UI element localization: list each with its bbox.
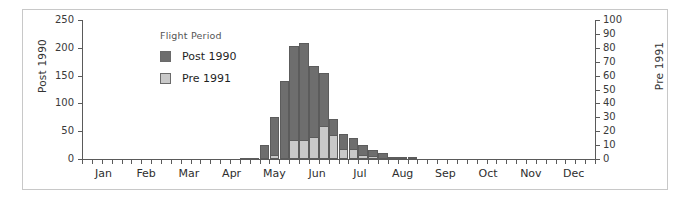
bar-segment-pre-1991 [349,149,359,159]
x-tick [408,160,409,164]
x-tick [368,160,369,164]
bar-segment-pre-1991 [368,156,378,159]
x-tick [210,160,211,164]
x-tick [92,160,93,164]
x-tick [516,160,517,164]
y-tick-right [596,76,600,77]
y-tick-right [596,34,600,35]
legend-item[interactable]: Post 1990 [160,50,237,63]
x-tick [467,160,468,164]
legend-item[interactable]: Pre 1991 [160,72,237,85]
bar-segment-pre-1991 [358,155,368,159]
bar-segment-pre-1991 [280,158,290,160]
x-axis-month-label: May [250,167,298,180]
x-axis-month-label: Oct [464,167,512,180]
bar-segment-pre-1991 [319,126,329,159]
x-tick [171,160,172,164]
y-tick-right [596,131,600,132]
x-tick [556,160,557,164]
bar-segment-pre-1991 [309,137,319,159]
x-axis-month-label: Jan [79,167,127,180]
y-tick-left [78,20,82,21]
x-tick [220,160,221,164]
y-tick-left [78,131,82,132]
x-tick [319,160,320,164]
x-axis-month-label: Jun [293,167,341,180]
bar-segment-pre-1991 [378,158,388,160]
x-tick [309,160,310,164]
x-axis-month-label: Sep [421,167,469,180]
bar-segment-pre-1991 [339,149,349,159]
y-tick-label-left: 0 [38,153,74,164]
x-tick [250,160,251,164]
y-tick-label-right: 10 [603,139,633,150]
x-tick [447,160,448,164]
x-axis-month-label: Feb [122,167,170,180]
y-tick-right [596,145,600,146]
x-tick [269,160,270,164]
y-tick-right [596,62,600,63]
y-tick-right [596,117,600,118]
x-tick [437,160,438,164]
right-axis-title: Pre 1991 [653,16,665,116]
bar-segment-post-1990 [240,158,250,160]
x-tick [348,160,349,164]
x-tick [141,160,142,164]
x-tick [575,160,576,164]
x-tick [565,160,566,164]
x-tick [260,160,261,164]
bar-segment-post-1990 [408,157,418,159]
y-tick-label-right: 20 [603,125,633,136]
x-tick [595,160,596,164]
legend-swatch-pre-1991 [160,73,171,84]
x-tick [161,160,162,164]
bar-segment-pre-1991 [329,135,339,159]
y-tick-label-right: 70 [603,56,633,67]
x-tick [200,160,201,164]
bar-segment-post-1990 [270,117,280,159]
chart-plot-area: 0501001502002500102030405060708090100Pos… [0,0,688,206]
y-tick-label-right: 80 [603,42,633,53]
x-tick [546,160,547,164]
x-tick [240,160,241,164]
y-tick-right [596,48,600,49]
x-axis-month-label: Dec [550,167,598,180]
legend-item-label: Post 1990 [182,50,237,63]
y-tick-label-right: 60 [603,70,633,81]
x-axis-month-label: Aug [379,167,427,180]
x-tick [112,160,113,164]
legend-item-label: Pre 1991 [182,72,231,85]
bar-segment-pre-1991 [299,140,309,160]
y-tick-left [78,76,82,77]
y-tick-right [596,90,600,91]
bar-segment-post-1990 [398,157,408,159]
bar-segment-post-1990 [280,81,290,159]
x-tick [536,160,537,164]
x-tick [82,160,83,164]
x-tick [279,160,280,164]
x-tick [585,160,586,164]
bar-segment-pre-1991 [289,140,299,160]
x-tick [506,160,507,164]
x-tick [191,160,192,164]
x-tick [131,160,132,164]
x-tick [427,160,428,164]
y-tick-label-left: 50 [38,125,74,136]
left-axis-line [82,20,83,160]
x-tick [181,160,182,164]
x-tick [299,160,300,164]
x-tick [151,160,152,164]
left-axis-title: Post 1990 [36,16,48,116]
x-tick [526,160,527,164]
x-tick [378,160,379,164]
y-tick-left [78,48,82,49]
x-tick [496,160,497,164]
bar-segment-post-1990 [260,145,270,160]
legend-swatch-post-1990 [160,51,171,62]
bar-segment-post-1990 [388,157,398,159]
chart-legend: Flight PeriodPost 1990Pre 1991 [160,30,237,94]
y-tick-right [596,159,600,160]
y-tick-label-right: 50 [603,84,633,95]
x-tick [457,160,458,164]
bar-segment-pre-1991 [270,155,280,159]
